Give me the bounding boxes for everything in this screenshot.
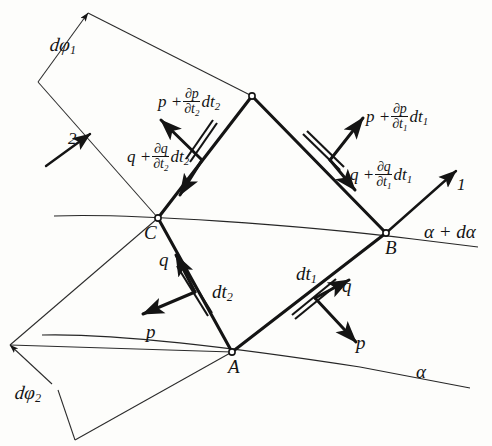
- angle-label-dphi1: dφ1: [50, 35, 76, 54]
- force-label-p-lower-right: p: [356, 333, 366, 352]
- force-expr-p-upper-left: p +∂p∂t2dt2: [158, 88, 220, 117]
- fraction-dq-dt2: ∂q∂t2: [152, 142, 169, 171]
- curve-label-alpha: α: [416, 362, 426, 381]
- fraction-dp-dt2-den-sub: 2: [195, 108, 199, 118]
- fraction-dp-dt2: ∂p∂t2: [183, 87, 200, 116]
- force-label-q-lower-left: q: [159, 250, 169, 269]
- length-label-dt2-lower-text: dt: [212, 281, 227, 302]
- length-label-dt1-lower-text: dt: [296, 263, 311, 284]
- vertex-marker-A: [229, 349, 235, 355]
- fraction-dq-dt2-num: ∂q: [152, 142, 169, 157]
- force-expr-q-upper-right-tail: dt: [393, 165, 406, 184]
- curve-alpha-plus-dalpha: [54, 216, 478, 247]
- fraction-dp-dt1-num: ∂p: [391, 102, 408, 117]
- vertex-label-C: C: [144, 223, 157, 242]
- tick-dt2-lower-b: [181, 263, 212, 313]
- tick-dt2-lower: [177, 266, 208, 316]
- force-expr-q-upper-right-lead: q +: [350, 165, 374, 184]
- vector-p-plus-dp-dt1: [330, 118, 363, 160]
- fraction-dp-dt1-den: ∂t1: [391, 117, 408, 131]
- angle-label-dphi2: dφ2: [15, 383, 41, 402]
- force-expr-p-upper-right-tail: dt: [409, 107, 422, 126]
- force-expr-p-upper-left-tail-sub: 2: [215, 100, 220, 112]
- force-expr-p-upper-right: p +∂p∂t1dt1: [366, 103, 428, 132]
- force-expr-q-upper-left-lead: q +: [127, 147, 151, 166]
- fraction-dq-dt1-den-sub: 1: [387, 181, 391, 191]
- length-label-dt1-lower-sub: 1: [311, 272, 317, 286]
- curve-label-alpha-plus-dalpha: α + dα: [424, 222, 476, 241]
- force-expr-p-upper-left-tail: dt: [201, 92, 214, 111]
- net-extension-top-left: [88, 13, 252, 96]
- direction-label-1: 1: [457, 176, 466, 193]
- force-expr-q-upper-right: q +∂q∂t1dt1: [350, 161, 412, 190]
- net-extension-C-lower-left: [10, 218, 158, 345]
- fraction-dp-dt2-den: ∂t2: [183, 102, 200, 116]
- dphi2-upper-ray: [10, 345, 52, 384]
- fraction-dq-dt2-den-sub: 2: [164, 163, 168, 173]
- forces-at-A-edge-dt2: [143, 255, 195, 314]
- fraction-dq-dt1: ∂q∂t1: [375, 160, 392, 189]
- figure-canvas: C B A α + dα α 1 2 dφ1 dφ2 p q p q dt2 d…: [0, 0, 492, 446]
- fraction-dp-dt1: ∂p∂t1: [391, 102, 408, 131]
- angle-label-dphi2-text: dφ: [14, 383, 36, 402]
- fraction-dq-dt2-den: ∂t2: [152, 157, 169, 171]
- curve-alpha: [42, 335, 470, 388]
- fraction-dq-dt1-den: ∂t1: [375, 175, 392, 189]
- vertex-marker-D: [249, 93, 255, 99]
- dphi2-chord-lower: [75, 352, 232, 440]
- force-expr-q-upper-left-tail: dt: [170, 147, 183, 166]
- force-expr-p-upper-right-tail-sub: 1: [423, 115, 428, 127]
- length-label-dt1-lower: dt1: [296, 264, 317, 283]
- angle-label-dphi2-sub: 2: [35, 391, 41, 405]
- length-label-dt2-lower: dt2: [212, 282, 233, 301]
- force-expr-q-upper-left-tail-sub: 2: [184, 155, 189, 167]
- vertex-label-B: B: [385, 238, 397, 257]
- force-expr-p-upper-left-lead: p +: [158, 92, 182, 111]
- length-label-dt2-lower-sub: 2: [227, 290, 233, 304]
- angle-label-dphi1-sub: 1: [70, 43, 76, 57]
- vertex-marker-B: [383, 230, 389, 236]
- coordinate-curves: [42, 216, 478, 388]
- vertex-label-A: A: [228, 357, 240, 376]
- vertex-marker-C: [155, 215, 161, 221]
- dphi2-lower-ray: [58, 390, 75, 440]
- fraction-dq-dt2-den-text: ∂t: [153, 156, 164, 171]
- fraction-dq-dt1-num: ∂q: [375, 160, 392, 175]
- fraction-dp-dt1-den-text: ∂t: [392, 116, 403, 131]
- force-label-p-lower-left: p: [146, 322, 156, 341]
- vertex-markers: [155, 93, 389, 355]
- angle-construction-lines: [10, 13, 252, 440]
- dphi2-chord-to-A: [10, 345, 232, 352]
- fraction-dp-dt1-den-sub: 1: [403, 123, 407, 133]
- fraction-dp-dt2-den-text: ∂t: [184, 101, 195, 116]
- vector-p-lower-right: [315, 298, 356, 342]
- force-label-q-lower-right: q: [342, 276, 352, 295]
- fraction-dq-dt1-den-text: ∂t: [376, 174, 387, 189]
- angle-label-dphi1-text: dφ: [49, 35, 71, 54]
- vector-p-lower-left: [143, 292, 195, 314]
- fraction-dp-dt2-num: ∂p: [183, 87, 200, 102]
- vector-q-lower-left: [176, 255, 195, 292]
- force-expr-q-upper-right-tail-sub: 1: [407, 173, 412, 185]
- force-expr-q-upper-left: q +∂q∂t2dt2: [127, 143, 189, 172]
- direction-label-2: 2: [68, 130, 77, 147]
- tick-dt2-upper: [190, 123, 217, 162]
- force-expr-p-upper-right-lead: p +: [366, 107, 390, 126]
